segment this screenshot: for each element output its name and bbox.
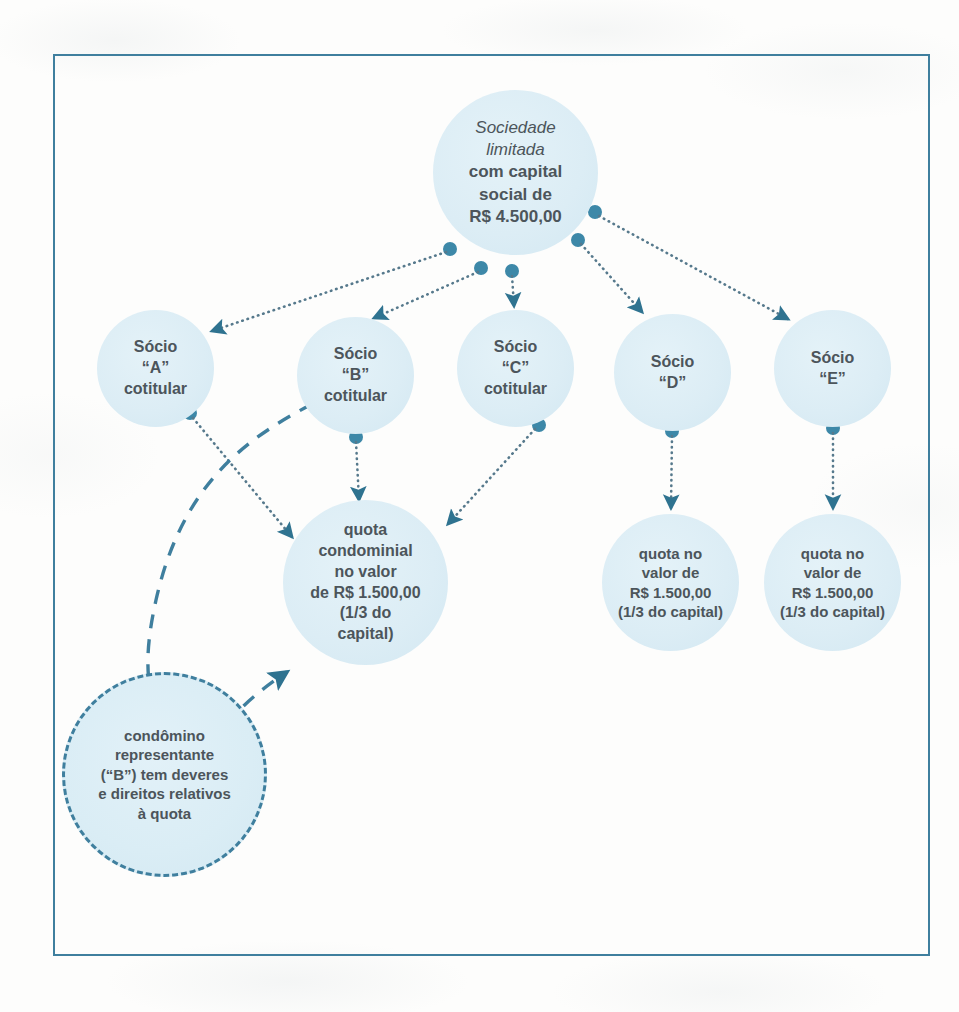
condomino-line-5: à quota bbox=[69, 804, 260, 824]
socio-c-line-2: “C” bbox=[461, 358, 570, 379]
quota-d-line-4: (1/3 do capital) bbox=[606, 602, 735, 622]
edge-company-to-socio-e bbox=[588, 205, 788, 319]
quota-condominial-line-4: de R$ 1.500,00 bbox=[287, 583, 444, 604]
company-line-4: social de bbox=[437, 184, 594, 206]
edge-socio-d-to-quota-d bbox=[665, 424, 679, 508]
node-sociedade-limitada[interactable]: Sociedade limitada com capital social de… bbox=[433, 90, 598, 255]
quota-d-line-2: valor de bbox=[606, 563, 735, 583]
socio-b-line-1: Sócio bbox=[301, 344, 410, 365]
company-line-1: Sociedade bbox=[437, 117, 594, 139]
node-socio-a[interactable]: Sócio “A” cotitular bbox=[97, 310, 214, 427]
condomino-line-3: (“B”) tem deveres bbox=[69, 765, 260, 785]
condomino-line-4: e direitos relativos bbox=[69, 784, 260, 804]
company-line-5: R$ 4.500,00 bbox=[437, 206, 594, 228]
node-condomino-representante[interactable]: condômino representante (“B”) tem devere… bbox=[62, 672, 267, 877]
quota-d-line-1: quota no bbox=[606, 544, 735, 564]
socio-b-line-3: cotitular bbox=[301, 386, 410, 407]
edge-company-to-socio-a bbox=[212, 242, 457, 331]
socio-e-line-2: “E” bbox=[778, 369, 887, 390]
quota-condominial-line-1: quota bbox=[287, 520, 444, 541]
socio-e-line-1: Sócio bbox=[778, 348, 887, 369]
edge-socio-b-to-quota-condominial bbox=[349, 430, 363, 500]
quota-e-line-1: quota no bbox=[768, 544, 897, 564]
quota-condominial-line-5: (1/3 do bbox=[287, 603, 444, 624]
quota-condominial-line-6: capital) bbox=[287, 624, 444, 645]
edge-company-to-socio-d bbox=[571, 233, 642, 312]
socio-d-line-2: “D” bbox=[618, 373, 727, 394]
node-socio-b[interactable]: Sócio “B” cotitular bbox=[297, 317, 414, 434]
node-quota-socio-e[interactable]: quota no valor de R$ 1.500,00 (1/3 do ca… bbox=[764, 514, 901, 651]
company-line-2: limitada bbox=[437, 139, 594, 161]
socio-a-line-3: cotitular bbox=[101, 379, 210, 400]
quota-e-line-3: R$ 1.500,00 bbox=[768, 583, 897, 603]
quota-e-line-2: valor de bbox=[768, 563, 897, 583]
edge-company-to-socio-c bbox=[505, 264, 519, 306]
condomino-line-2: representante bbox=[69, 745, 260, 765]
node-socio-e[interactable]: Sócio “E” bbox=[774, 310, 891, 427]
socio-a-line-2: “A” bbox=[101, 358, 210, 379]
company-line-3: com capital bbox=[437, 161, 594, 183]
quota-condominial-line-2: condominial bbox=[287, 541, 444, 562]
quota-d-line-3: R$ 1.500,00 bbox=[606, 583, 735, 603]
edge-company-to-socio-b bbox=[374, 261, 488, 318]
node-socio-d[interactable]: Sócio “D” bbox=[614, 314, 731, 431]
socio-d-line-1: Sócio bbox=[618, 352, 727, 373]
socio-c-line-1: Sócio bbox=[461, 337, 570, 358]
node-quota-condominial[interactable]: quota condominial no valor de R$ 1.500,0… bbox=[283, 500, 448, 665]
node-socio-c[interactable]: Sócio “C” cotitular bbox=[457, 310, 574, 427]
quota-e-line-4: (1/3 do capital) bbox=[768, 602, 897, 622]
quota-condominial-line-3: no valor bbox=[287, 562, 444, 583]
socio-c-line-3: cotitular bbox=[461, 379, 570, 400]
socio-a-line-1: Sócio bbox=[101, 337, 210, 358]
node-quota-socio-d[interactable]: quota no valor de R$ 1.500,00 (1/3 do ca… bbox=[602, 514, 739, 651]
edge-socio-e-to-quota-e bbox=[826, 421, 840, 508]
edge-socio-c-to-quota-condominial bbox=[448, 418, 546, 524]
condomino-line-1: condômino bbox=[69, 726, 260, 746]
diagram-page: Sociedade limitada com capital social de… bbox=[0, 0, 959, 1012]
socio-b-line-2: “B” bbox=[301, 365, 410, 386]
edge-socio-a-to-quota-condominial bbox=[183, 406, 292, 537]
